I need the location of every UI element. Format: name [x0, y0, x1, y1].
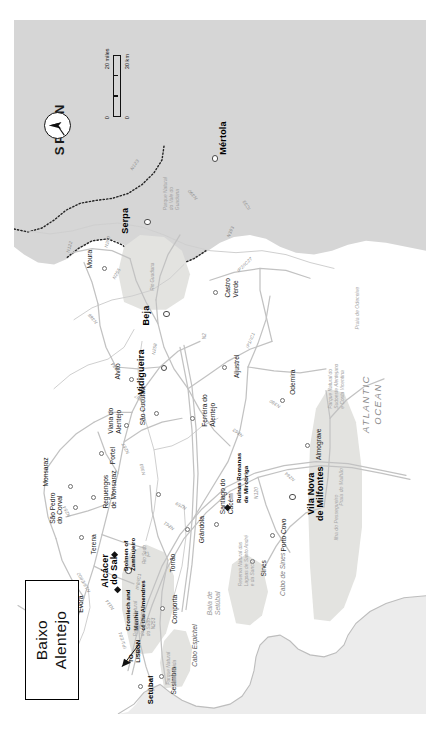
scale-bar-km-line	[120, 55, 121, 117]
scale-tick-km-3	[114, 55, 121, 56]
scale-label-km-zero: 0	[124, 116, 130, 119]
scale-label-km-max: 30 km	[124, 54, 130, 69]
scale-tick-km-0	[114, 116, 121, 117]
road-label-n120: N120	[255, 487, 260, 499]
map-title-line2: Alentejo	[52, 611, 69, 669]
scale-label-miles-max: 20 miles	[104, 48, 110, 69]
scale-bar: 0 20 miles 0 30 km	[105, 41, 139, 117]
map-canvas: SPAIN ATLANTIC OCEAN Baía de Setúbal Alc…	[0, 0, 444, 734]
scale-tick-miles-2	[113, 75, 118, 76]
map-frame: SPAIN ATLANTIC OCEAN Baía de Setúbal Alc…	[14, 20, 426, 714]
map-page: SPAIN ATLANTIC OCEAN Baía de Setúbal Alc…	[0, 0, 444, 734]
road-label-n253: N253	[152, 618, 157, 630]
scale-bar-miles-line	[113, 55, 114, 117]
north-arrow-icon	[45, 113, 70, 138]
map-title-box: Baixo Alentejo	[25, 580, 79, 700]
compass-rose	[44, 112, 71, 139]
map-title: Baixo Alentejo	[33, 611, 70, 669]
map-title-line1: Baixo	[33, 620, 50, 660]
scale-tick-miles-1	[113, 95, 118, 96]
scale-label-miles-zero: 0	[104, 116, 110, 119]
road-label-n2: N2	[203, 333, 208, 339]
